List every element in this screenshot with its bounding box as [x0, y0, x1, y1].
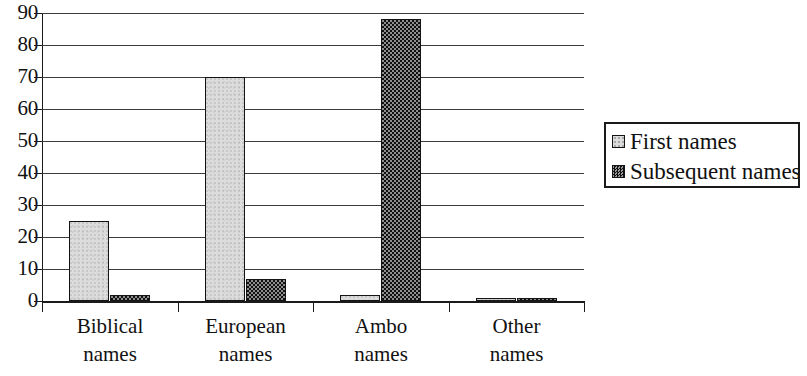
bar-european-first-names: [205, 77, 245, 301]
y-axis-tick-label: 40: [4, 162, 38, 183]
x-axis-tick: [42, 302, 43, 312]
y-axis-labels: 90 80 70 60 50 40 30 20 10 0: [0, 0, 38, 320]
y-axis-tick-label: 80: [4, 34, 38, 55]
category-label-line2: names: [313, 340, 449, 368]
y-axis-tick-label: 60: [4, 98, 38, 119]
legend-row-first-names: First names: [612, 126, 737, 156]
gridline: [42, 237, 584, 238]
x-axis-tick: [584, 302, 585, 312]
category-label-line1: Biblical: [42, 312, 178, 340]
x-axis-category-label-ambo: Ambo names: [313, 312, 449, 368]
legend-row-subsequent-names: Subsequent names: [612, 156, 800, 186]
bar-chart: 90 80 70 60 50 40 30 20 10 0: [0, 0, 807, 376]
x-axis-category-label-european: European names: [178, 312, 313, 368]
y-axis-tick-label: 30: [4, 194, 38, 215]
gridline: [42, 77, 584, 78]
gridline: [42, 13, 584, 14]
category-label-line2: names: [178, 340, 313, 368]
gridline: [42, 45, 584, 46]
x-axis-category-label-biblical: Biblical names: [42, 312, 178, 368]
legend-label-first-names: First names: [630, 129, 737, 154]
plot-area: [42, 13, 584, 301]
subsequent-names-swatch-icon: [612, 165, 625, 178]
x-axis-tick: [313, 302, 314, 312]
gridline: [42, 109, 584, 110]
bar-european-subsequent-names: [246, 279, 286, 301]
category-label-line1: Other: [449, 312, 584, 340]
y-axis-tick-label: 70: [4, 66, 38, 87]
y-axis-tick-label: 50: [4, 130, 38, 151]
gridline: [42, 269, 584, 270]
gridline: [42, 205, 584, 206]
gridline: [42, 141, 584, 142]
category-label-line1: Ambo: [313, 312, 449, 340]
y-axis-tick-label: 20: [4, 226, 38, 247]
y-axis-tick-label: 0: [4, 290, 38, 311]
category-label-line1: European: [178, 312, 313, 340]
category-label-line2: names: [449, 340, 584, 368]
chart-legend: First names Subsequent names: [604, 122, 800, 188]
first-names-swatch-icon: [612, 135, 625, 148]
category-label-line2: names: [42, 340, 178, 368]
bar-biblical-first-names: [69, 221, 109, 301]
y-axis-tick-label: 90: [4, 2, 38, 23]
y-axis-tick-label: 10: [4, 258, 38, 279]
bar-ambo-subsequent-names: [381, 19, 421, 301]
x-axis-category-labels: Biblical names European names Ambo names…: [42, 312, 585, 376]
x-axis-tick: [178, 302, 179, 312]
legend-label-subsequent-names: Subsequent names: [630, 159, 800, 184]
x-axis-category-label-other: Other names: [449, 312, 584, 368]
x-axis-tick: [449, 302, 450, 312]
gridline: [42, 173, 584, 174]
